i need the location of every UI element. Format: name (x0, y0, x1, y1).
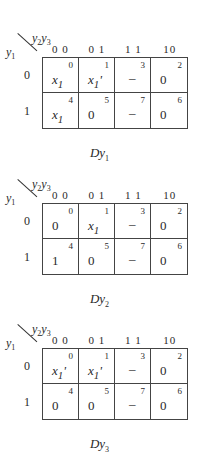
cell-value: x1' (52, 363, 66, 381)
column-header: 0 0 (42, 189, 79, 203)
kmap-cell: 60 (151, 239, 187, 274)
column-header: 0 1 (79, 43, 116, 57)
row-headers: 01 (20, 203, 34, 275)
minterm-index: 3 (141, 206, 146, 216)
cell-value: 0 (160, 253, 167, 269)
cell-value: 0 (160, 218, 167, 234)
column-headers: 0 00 11 110 (42, 189, 188, 203)
kmap-cell: 20 (151, 349, 187, 384)
cell-value: 0 (160, 398, 167, 414)
map-title: Dy2 (0, 291, 199, 309)
cell-value: 0 (160, 107, 167, 123)
minterm-index: 4 (69, 241, 74, 251)
kmap-grid: 0x1'1x1'3–2040507–60 (42, 348, 188, 420)
kmap-cell: 40 (43, 384, 79, 419)
cell-value: 0 (160, 363, 167, 379)
kmap-cell: 1x1' (79, 349, 115, 384)
column-header: 0 1 (79, 334, 116, 348)
minterm-index: 6 (178, 241, 183, 251)
cell-value: 0 (160, 72, 167, 88)
row-header: 0 (20, 348, 34, 384)
minterm-index: 1 (105, 206, 110, 216)
kmap-cell: 50 (79, 239, 115, 274)
kmap-cell: 3– (115, 349, 151, 384)
cell-value: x1' (88, 363, 102, 381)
kmap-grid: 0x11x1'3–204x1507–60 (42, 57, 188, 129)
column-header: 1 1 (115, 334, 152, 348)
cell-value: 0 (52, 398, 59, 414)
minterm-index: 6 (178, 386, 183, 396)
kmap-cell: 7– (115, 239, 151, 274)
kmap-cell: 7– (115, 93, 151, 128)
cell-value: 0 (88, 398, 95, 414)
kmap-cell: 0x1 (43, 58, 79, 93)
minterm-index: 0 (69, 60, 74, 70)
cell-value: x1 (88, 218, 99, 236)
minterm-index: 1 (105, 351, 110, 361)
minterm-index: 0 (69, 206, 74, 216)
kmap-cell: 20 (151, 204, 187, 239)
row-headers: 01 (20, 57, 34, 129)
karnaugh-map-1: y2y3y10 00 11 110010x11x1'3–204x1507–60D… (0, 33, 199, 163)
minterm-index: 2 (178, 351, 183, 361)
minterm-index: 4 (69, 95, 74, 105)
minterm-index: 7 (141, 95, 146, 105)
kmap-cell: 00 (43, 204, 79, 239)
column-header: 10 (152, 43, 189, 57)
cell-value: 1 (52, 253, 59, 269)
minterm-index: 1 (105, 60, 110, 70)
cell-value: x1 (52, 72, 63, 90)
row-header: 0 (20, 203, 34, 239)
column-headers: 0 00 11 110 (42, 334, 188, 348)
column-header: 10 (152, 334, 189, 348)
minterm-index: 2 (178, 206, 183, 216)
karnaugh-map-3: y2y3y10 00 11 110010x1'1x1'3–2040507–60D… (0, 324, 199, 454)
kmap-cell: 0x1' (43, 349, 79, 384)
cell-value: 0 (52, 218, 59, 234)
column-header: 0 1 (79, 189, 116, 203)
cell-value: x1 (52, 107, 63, 125)
column-header: 0 0 (42, 43, 79, 57)
column-header: 1 1 (115, 189, 152, 203)
kmap-cell: 1x1' (79, 58, 115, 93)
row-header: 1 (20, 384, 34, 420)
kmap-cell: 20 (151, 58, 187, 93)
map-title: Dy1 (0, 145, 199, 163)
kmap-cell: 50 (79, 384, 115, 419)
cell-value: – (129, 70, 136, 86)
minterm-index: 3 (141, 351, 146, 361)
minterm-index: 6 (178, 95, 183, 105)
cell-value: – (129, 105, 136, 121)
kmap-cell: 4x1 (43, 93, 79, 128)
cell-value: – (129, 361, 136, 377)
map-title: Dy3 (0, 436, 199, 454)
minterm-index: 0 (69, 351, 74, 361)
column-header: 10 (152, 189, 189, 203)
cell-value: – (129, 216, 136, 232)
minterm-index: 4 (69, 386, 74, 396)
cell-value: x1' (88, 72, 102, 90)
row-variable-label: y1 (6, 336, 15, 352)
minterm-index: 5 (105, 386, 110, 396)
column-header: 1 1 (115, 43, 152, 57)
cell-value: 0 (88, 107, 95, 123)
cell-value: – (129, 251, 136, 267)
cell-value: 0 (88, 253, 95, 269)
row-header: 1 (20, 93, 34, 129)
cell-value: – (129, 396, 136, 412)
row-variable-label: y1 (6, 191, 15, 207)
minterm-index: 7 (141, 241, 146, 251)
row-header: 1 (20, 239, 34, 275)
minterm-index: 2 (178, 60, 183, 70)
row-variable-label: y1 (6, 45, 15, 61)
minterm-index: 5 (105, 95, 110, 105)
minterm-index: 3 (141, 60, 146, 70)
column-headers: 0 00 11 110 (42, 43, 188, 57)
kmap-cell: 7– (115, 384, 151, 419)
row-headers: 01 (20, 348, 34, 420)
row-header: 0 (20, 57, 34, 93)
kmap-cell: 41 (43, 239, 79, 274)
kmap-grid: 001x13–2041507–60 (42, 203, 188, 275)
column-header: 0 0 (42, 334, 79, 348)
kmap-cell: 50 (79, 93, 115, 128)
